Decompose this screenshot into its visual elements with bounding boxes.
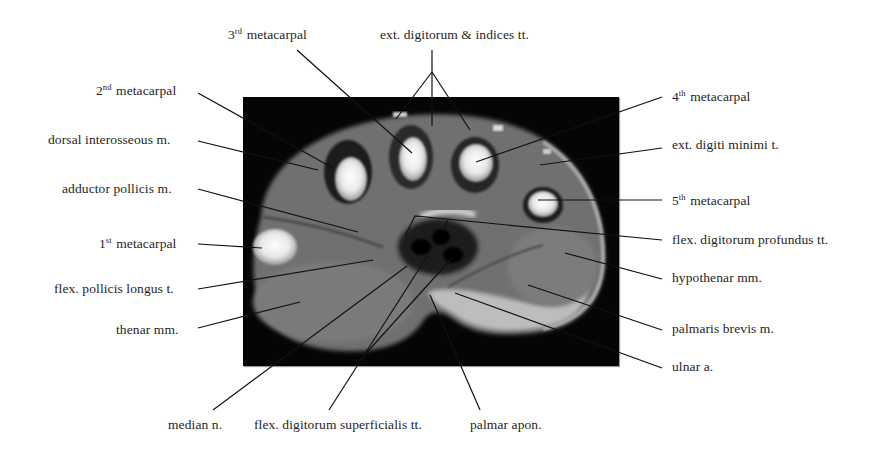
ordinal: 5 xyxy=(672,193,679,208)
label-third-metacarpal: 3rd metacarpal xyxy=(228,27,307,44)
tendon-dark-3 xyxy=(443,247,463,263)
label-palmar-aponeurosis: palmar apon. xyxy=(470,417,542,433)
ordinal-suffix: th xyxy=(679,88,686,98)
label-dorsal-interosseous: dorsal interosseous m. xyxy=(48,132,171,148)
label-text: ulnar a. xyxy=(672,359,713,374)
label-fifth-metacarpal: 5th metacarpal xyxy=(672,193,750,210)
label-flex-digitorum-superficialis: flex. digitorum superficialis tt. xyxy=(254,417,422,433)
label-thenar: thenar mm. xyxy=(116,322,178,338)
label-ext-digiti-minimi: ext. digiti minimi t. xyxy=(672,137,779,153)
label-ulnar-artery: ulnar a. xyxy=(672,359,713,375)
label-text: thenar mm. xyxy=(116,322,178,337)
tendon-dark-2 xyxy=(432,229,450,245)
second-metacarpal-bone xyxy=(335,157,367,201)
label-flex-pollicis-longus: flex. pollicis longus t. xyxy=(54,281,174,297)
ordinal: 4 xyxy=(672,89,679,104)
label-median-nerve: median n. xyxy=(168,417,222,433)
label-text: palmar apon. xyxy=(470,417,542,432)
label-flex-digitorum-profundus: flex. digitorum profundus tt. xyxy=(672,232,828,248)
ordinal: 1 xyxy=(99,236,106,251)
label-text: adductor pollicis m. xyxy=(62,181,172,196)
label-adductor-pollicis: adductor pollicis m. xyxy=(62,181,172,197)
label-text: flex. digitorum profundus tt. xyxy=(672,232,828,247)
carpal-tunnel xyxy=(398,219,478,275)
label-fourth-metacarpal: 4th metacarpal xyxy=(672,89,750,106)
anatomy-figure: 3rd metacarpal ext. digitorum & indices … xyxy=(0,0,884,461)
label-text: metacarpal xyxy=(690,89,750,104)
mri-cross-section xyxy=(243,97,619,366)
label-text: median n. xyxy=(168,417,222,432)
ordinal-suffix: th xyxy=(679,192,686,202)
label-text: flex. digitorum superficialis tt. xyxy=(254,417,422,432)
ordinal-suffix: nd xyxy=(103,82,112,92)
label-ext-digitorum-indices: ext. digitorum & indices tt. xyxy=(380,27,529,43)
third-metacarpal-bone xyxy=(399,137,427,181)
ordinal-suffix: st xyxy=(106,235,112,245)
label-text: flex. pollicis longus t. xyxy=(54,281,174,296)
label-text: ext. digitorum & indices tt. xyxy=(380,27,529,42)
thenar-muscle xyxy=(253,262,413,342)
ordinal: 3 xyxy=(228,27,235,42)
ordinal-suffix: rd xyxy=(235,26,242,36)
label-text: metacarpal xyxy=(116,83,176,98)
tendon-dark-1 xyxy=(411,239,431,255)
label-text: palmaris brevis m. xyxy=(672,321,774,336)
hypothenar-muscle xyxy=(508,227,598,307)
label-first-metacarpal: 1st metacarpal xyxy=(99,236,176,253)
ext-tendon-fleck-3 xyxy=(543,149,551,154)
label-text: metacarpal xyxy=(690,193,750,208)
mri-image xyxy=(243,97,619,366)
label-text: ext. digiti minimi t. xyxy=(672,137,779,152)
first-metacarpal-bone xyxy=(253,229,297,265)
label-text: metacarpal xyxy=(116,236,176,251)
label-second-metacarpal: 2nd metacarpal xyxy=(96,83,176,100)
ordinal: 2 xyxy=(96,83,103,98)
ext-tendon-fleck-1 xyxy=(393,112,407,117)
ext-tendon-fleck-2 xyxy=(493,125,503,131)
fourth-metacarpal-bone xyxy=(459,144,493,182)
label-text: dorsal interosseous m. xyxy=(48,132,171,147)
label-palmaris-brevis: palmaris brevis m. xyxy=(672,321,774,337)
label-hypothenar: hypothenar mm. xyxy=(672,270,762,286)
fifth-metacarpal-bone xyxy=(528,191,558,217)
label-text: hypothenar mm. xyxy=(672,270,762,285)
label-text: metacarpal xyxy=(247,27,307,42)
